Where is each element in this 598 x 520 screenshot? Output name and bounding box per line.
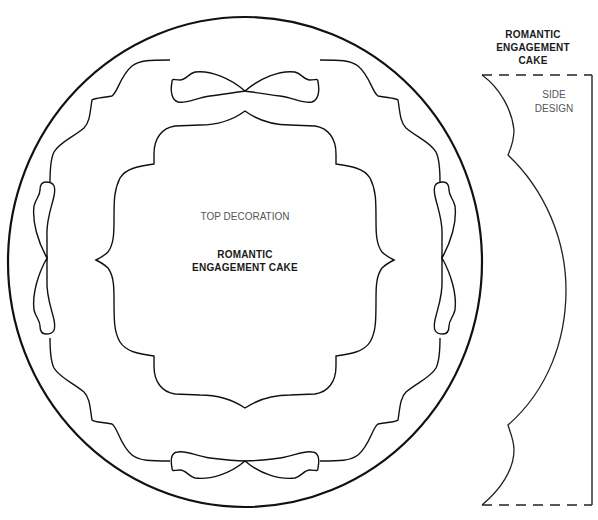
top-bow: [171, 72, 245, 103]
side-label-line2: DESIGN: [512, 102, 596, 116]
top-title-line2: ENGAGEMENT CAKE: [150, 261, 340, 274]
side-view-title: ROMANTIC ENGAGEMENT CAKE: [478, 28, 588, 67]
top-view-title: ROMANTIC ENGAGEMENT CAKE: [150, 248, 340, 274]
side-title-line2: ENGAGEMENT: [478, 41, 588, 54]
side-design-label: SIDE DESIGN: [512, 88, 596, 116]
side-title-line3: CAKE: [478, 54, 588, 67]
bottom-bow: [171, 452, 245, 479]
top-decoration-label: TOP DECORATION: [160, 211, 330, 222]
side-design-panel: [482, 75, 592, 505]
right-bow: [434, 182, 455, 258]
side-label-line1: SIDE: [512, 88, 596, 102]
left-bow: [34, 182, 55, 258]
side-scallop-outline: [482, 75, 566, 505]
top-title-line1: ROMANTIC: [150, 248, 340, 261]
side-title-line1: ROMANTIC: [478, 28, 588, 41]
